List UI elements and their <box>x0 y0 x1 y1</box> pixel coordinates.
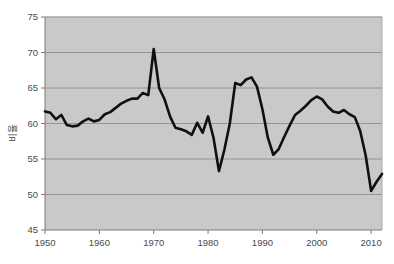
x-tick-label: 1950 <box>34 237 55 248</box>
y-tick-label: 75 <box>27 11 38 22</box>
x-tick-label: 2000 <box>306 237 327 248</box>
y-tick-label: 45 <box>27 224 38 235</box>
x-tick-label: 2010 <box>361 237 382 248</box>
y-tick-label: 55 <box>27 153 38 164</box>
x-tick-label: 1990 <box>252 237 273 248</box>
x-axis-ticks-group: 1950196019701980199020002010 <box>34 230 381 248</box>
chart-canvas: 45505560657075 1950196019701980199020002… <box>0 0 394 264</box>
x-tick-label: 1960 <box>89 237 110 248</box>
y-tick-label: 60 <box>27 118 38 129</box>
y-axis-title: 비율 <box>7 124 18 142</box>
x-tick-label: 1970 <box>143 237 164 248</box>
x-tick-label: 1980 <box>197 237 218 248</box>
line-chart-figure: 45505560657075 1950196019701980199020002… <box>0 0 394 264</box>
y-tick-label: 70 <box>27 47 38 58</box>
y-axis-ticks-group: 45505560657075 <box>27 11 45 235</box>
y-tick-label: 65 <box>27 82 38 93</box>
y-tick-label: 50 <box>27 189 38 200</box>
